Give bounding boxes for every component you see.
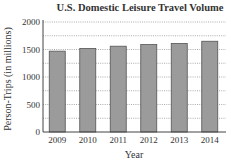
x-tick-label: 2012 [140, 135, 158, 145]
y-tick-label: 500 [27, 100, 41, 110]
x-tick-label: 2010 [79, 135, 98, 145]
bar-2013 [171, 43, 187, 132]
bar-chart: U.S. Domestic Leisure Travel Volume 0500… [0, 0, 231, 166]
x-tick-label: 2013 [170, 135, 189, 145]
y-tick-label: 2000 [22, 17, 41, 27]
bar-2014 [202, 41, 218, 132]
y-tick-labels: 0500100015002000 [22, 17, 41, 137]
x-tick-label: 2014 [201, 135, 220, 145]
gridlines [43, 22, 226, 118]
bar-2011 [110, 46, 126, 132]
y-tick-label: 0 [36, 127, 41, 137]
chart-title: U.S. Domestic Leisure Travel Volume [57, 2, 224, 13]
y-axis-label: Person-Trips (in millions) [2, 27, 14, 131]
x-tick-label: 2009 [48, 135, 67, 145]
y-tick-label: 1500 [22, 45, 41, 55]
bar-2010 [80, 48, 96, 132]
bar-2012 [141, 45, 157, 132]
x-tick-label: 2011 [109, 135, 127, 145]
y-tick-label: 1000 [22, 72, 41, 82]
x-axis-label: Year [125, 149, 144, 160]
x-tick-labels: 200920102011201220132014 [48, 135, 219, 145]
bar-2009 [49, 51, 65, 132]
